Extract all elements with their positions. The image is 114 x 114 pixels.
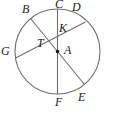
point-label-E: E [78, 91, 85, 103]
point-label-G: G [1, 45, 10, 57]
point-label-D: D [72, 1, 81, 13]
point-label-T: T [37, 37, 44, 49]
circle-geometry-figure: B C D G T K A F E [0, 0, 114, 114]
point-label-K: K [59, 22, 67, 34]
point-label-F: F [55, 96, 62, 108]
center-point-A-dot [56, 50, 60, 54]
point-label-C: C [55, 0, 63, 10]
segment-G-to-D [16, 22, 86, 58]
point-label-B: B [22, 3, 29, 15]
point-label-A: A [64, 44, 71, 56]
